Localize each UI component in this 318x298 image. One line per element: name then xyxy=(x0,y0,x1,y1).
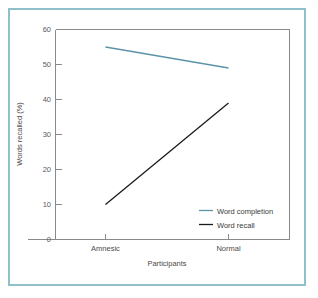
chart-legend: Word completion Word recall xyxy=(199,207,273,230)
line-chart: 60 50 40 30 20 10 0 Words recalled (%) A… xyxy=(0,0,318,298)
y-tick-label: 30 xyxy=(43,130,51,139)
y-tick-label: 10 xyxy=(43,200,51,209)
x-tick-label-normal: Normal xyxy=(216,244,241,253)
series-line-word-recall xyxy=(106,103,229,205)
x-tick-label-amnesic: Amnesic xyxy=(91,244,120,253)
y-axis-tick-labels: 60 50 40 30 20 10 0 xyxy=(43,25,51,244)
legend-label-word-recall: Word recall xyxy=(217,221,255,230)
legend-label-word-completion: Word completion xyxy=(217,207,273,216)
chart-figure: 60 50 40 30 20 10 0 Words recalled (%) A… xyxy=(0,0,318,298)
x-axis-ticks xyxy=(106,234,229,240)
x-axis-title: Participants xyxy=(147,259,186,268)
y-axis-title: Words recalled (%) xyxy=(15,102,24,166)
y-tick-label: 40 xyxy=(43,95,51,104)
y-axis-ticks xyxy=(56,30,62,240)
y-tick-label: 20 xyxy=(43,165,51,174)
series-line-word-completion xyxy=(106,47,229,68)
y-tick-label: 60 xyxy=(43,25,51,34)
y-tick-label: 0 xyxy=(47,235,51,244)
y-tick-label: 50 xyxy=(43,60,51,69)
